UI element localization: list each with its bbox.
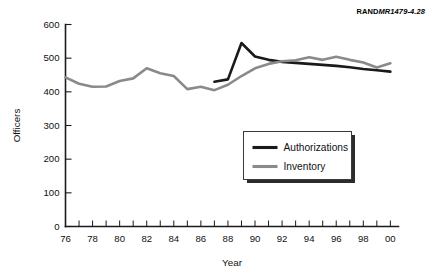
x-tick-label: 90 <box>250 233 261 244</box>
chart-legend: AuthorizationsInventory <box>244 132 356 184</box>
y-tick-label: 300 <box>43 120 59 131</box>
x-tick-label: 98 <box>358 233 369 244</box>
y-tick-label: 200 <box>43 153 59 164</box>
series-group <box>66 43 391 90</box>
y-tick-label: 100 <box>43 187 59 198</box>
x-tick-label: 80 <box>114 233 125 244</box>
y-tick-label: 500 <box>43 52 59 63</box>
x-tick-label: 96 <box>331 233 342 244</box>
x-tick-label: 78 <box>87 233 98 244</box>
x-tick-label: 76 <box>60 233 71 244</box>
y-tick-label: 400 <box>43 86 59 97</box>
x-axis-ticks <box>66 221 391 227</box>
y-axis-tick-labels: 0100200300400500600 <box>43 19 59 232</box>
y-axis-label: Officers <box>11 109 22 143</box>
y-tick-label: 600 <box>43 19 59 30</box>
x-tick-label: 94 <box>304 233 315 244</box>
legend-label-authorizations: Authorizations <box>284 142 349 153</box>
chart-figure: RANDMR1479-4.28 0100200300400500600 7678… <box>0 0 433 277</box>
y-tick-label: 0 <box>54 221 59 232</box>
x-axis-label: Year <box>222 257 243 268</box>
line-chart: 0100200300400500600 76788082848688909294… <box>0 0 433 277</box>
series-line-inventory <box>66 57 391 90</box>
x-tick-label: 86 <box>196 233 207 244</box>
legend-box <box>244 132 352 180</box>
x-tick-label: 84 <box>168 233 179 244</box>
x-axis-tick-labels: 76788082848688909294969800 <box>60 233 396 244</box>
y-axis-ticks <box>66 25 72 227</box>
x-tick-label: 88 <box>223 233 234 244</box>
x-tick-label: 00 <box>385 233 396 244</box>
x-tick-label: 82 <box>141 233 152 244</box>
x-tick-label: 92 <box>277 233 288 244</box>
legend-label-inventory: Inventory <box>284 161 327 172</box>
